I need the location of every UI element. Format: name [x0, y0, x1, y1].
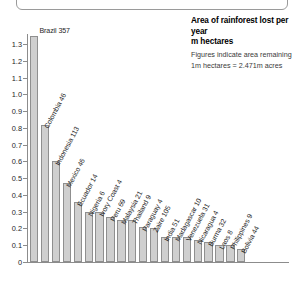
y-tick-label: 0.1 — [2, 241, 22, 250]
bar — [117, 220, 125, 262]
y-tick-mark — [23, 145, 27, 146]
y-tick-label: 1.1 — [2, 74, 22, 83]
bar-label: Colombia 46 — [43, 93, 68, 131]
y-tick-mark — [23, 228, 27, 229]
bar — [95, 212, 103, 262]
y-tick-mark — [23, 262, 27, 263]
bar — [41, 125, 49, 263]
y-tick-label: 0 — [2, 258, 22, 267]
y-tick-mark — [23, 94, 27, 95]
y-tick-label: 1.0 — [2, 90, 22, 99]
y-tick-mark — [23, 195, 27, 196]
bar-series: Brazil 357Colombia 46Indonesia 113Mexico… — [30, 34, 288, 262]
y-tick-label: 1.2 — [2, 57, 22, 66]
y-tick-mark — [23, 61, 27, 62]
y-tick-mark — [23, 212, 27, 213]
y-tick-mark — [23, 245, 27, 246]
y-tick-label: 0.4 — [2, 191, 22, 200]
y-tick-label: 0.2 — [2, 224, 22, 233]
y-tick-mark — [23, 178, 27, 179]
bar-label: Mexico 46 — [65, 158, 87, 190]
y-axis-line — [27, 34, 28, 262]
y-tick-mark — [23, 128, 27, 129]
y-tick-label: 0.8 — [2, 124, 22, 133]
y-tick-mark — [23, 78, 27, 79]
y-tick-label: 0.9 — [2, 107, 22, 116]
y-tick-label: 0.5 — [2, 174, 22, 183]
bar — [52, 161, 60, 262]
bar — [106, 217, 114, 262]
bar — [85, 212, 93, 262]
x-axis-baseline — [27, 262, 289, 263]
bar — [30, 36, 38, 262]
y-tick-label: 1.3 — [2, 40, 22, 49]
bar-chart: 00.10.20.30.40.50.60.70.80.91.01.11.21.3… — [0, 0, 302, 289]
y-tick-label: 0.6 — [2, 157, 22, 166]
bar — [74, 202, 82, 262]
y-tick-mark — [23, 111, 27, 112]
y-tick-mark — [23, 161, 27, 162]
y-tick-label: 0.7 — [2, 141, 22, 150]
y-tick-mark — [23, 44, 27, 45]
bar — [128, 220, 136, 262]
y-tick-label: 0.3 — [2, 208, 22, 217]
bar-label: Brazil 357 — [39, 27, 70, 35]
bar — [63, 183, 71, 262]
bar — [150, 228, 158, 262]
